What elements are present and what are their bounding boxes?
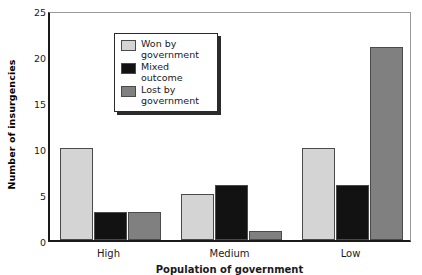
bar — [60, 148, 93, 240]
y-axis-title: Number of insurgencies — [0, 0, 22, 248]
legend-item-label: Mixed outcome — [141, 62, 212, 83]
y-tick-label: 5 — [26, 191, 46, 202]
bar — [302, 148, 335, 240]
x-category-label: Medium — [210, 248, 250, 259]
x-axis-title: Population of government — [48, 264, 411, 275]
bar — [370, 47, 403, 240]
bar — [181, 194, 214, 240]
legend-item[interactable]: Won by government — [121, 39, 212, 60]
legend-swatch-icon — [121, 63, 136, 74]
y-axis-title-text: Number of insurgencies — [6, 59, 17, 189]
y-tick-label: 20 — [26, 53, 46, 64]
y-tick-label: 10 — [26, 145, 46, 156]
legend-item[interactable]: Mixed outcome — [121, 62, 212, 83]
legend-swatch-icon — [121, 86, 136, 97]
legend-swatch-icon — [121, 40, 136, 51]
bar — [128, 212, 161, 240]
bar — [336, 185, 369, 240]
legend-item[interactable]: Lost by government — [121, 85, 212, 106]
legend-item-label: Won by government — [141, 39, 212, 60]
bar — [94, 212, 127, 240]
bar — [215, 185, 248, 240]
legend: Won by governmentMixed outcomeLost by go… — [114, 33, 218, 112]
legend-item-label: Lost by government — [141, 85, 212, 106]
y-tick-label: 25 — [26, 7, 46, 18]
bar — [249, 231, 282, 240]
plot-area — [48, 12, 411, 242]
x-category-label: Low — [341, 248, 361, 259]
y-tick-label: 15 — [26, 99, 46, 110]
x-category-label: High — [97, 248, 120, 259]
y-tick-label: 0 — [26, 237, 46, 248]
